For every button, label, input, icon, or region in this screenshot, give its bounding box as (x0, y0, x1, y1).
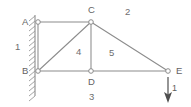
truss-geometry-svg (0, 0, 191, 107)
member-4-BC (38, 22, 91, 71)
node-A-marker (36, 20, 41, 25)
node-B-marker (36, 69, 41, 74)
member-label-5: 5 (109, 48, 114, 57)
wall-hatching (29, 16, 35, 101)
node-label-A: A (22, 17, 28, 26)
node-E-marker (166, 69, 171, 74)
node-label-E: E (176, 66, 182, 75)
node-label-B: B (22, 66, 28, 75)
member-label-4: 4 (76, 47, 81, 56)
node-D-marker (89, 69, 94, 74)
node-C-marker (89, 20, 94, 25)
load-label: 1 (172, 84, 177, 93)
truss-nodes (36, 20, 171, 74)
load-arrow (164, 77, 172, 103)
member-label-2: 2 (125, 7, 130, 16)
member-label-1: 1 (15, 42, 20, 51)
member-5-CE (91, 22, 168, 71)
member-label-3: 3 (89, 92, 94, 101)
node-label-D: D (88, 77, 95, 86)
truss-diagram: A C B D E 1 2 3 4 5 1 (0, 0, 191, 107)
truss-members (38, 22, 168, 71)
node-label-C: C (88, 5, 95, 14)
